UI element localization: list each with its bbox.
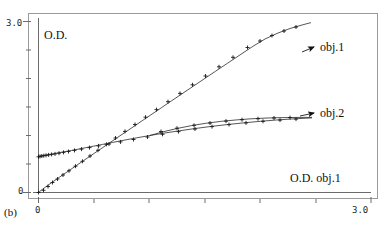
x-axis-tick-min: 0 bbox=[35, 205, 40, 215]
series-label-obj2: obj.2 bbox=[320, 106, 344, 121]
y-axis-ticks bbox=[23, 22, 31, 193]
x-axis-ticks bbox=[39, 197, 372, 203]
panel-label: (b) bbox=[4, 206, 17, 218]
x-axis-tick-max: 3.0 bbox=[352, 205, 368, 215]
figure-panel: 3.0 0 0 3.0 O.D. O.D. obj.1 obj.1 obj.2 … bbox=[0, 0, 389, 228]
series-obj2 bbox=[37, 113, 315, 159]
x-axis-title: O.D. obj.1 bbox=[290, 171, 341, 186]
obj1-markers bbox=[37, 25, 299, 195]
series-obj1 bbox=[37, 23, 315, 195]
y-axis-title: O.D. bbox=[44, 28, 67, 43]
y-axis-tick-max: 3.0 bbox=[6, 18, 22, 28]
y-axis-tick-min: 0 bbox=[18, 186, 23, 196]
series-label-obj1: obj.1 bbox=[320, 40, 344, 55]
obj2-markers bbox=[37, 116, 299, 159]
